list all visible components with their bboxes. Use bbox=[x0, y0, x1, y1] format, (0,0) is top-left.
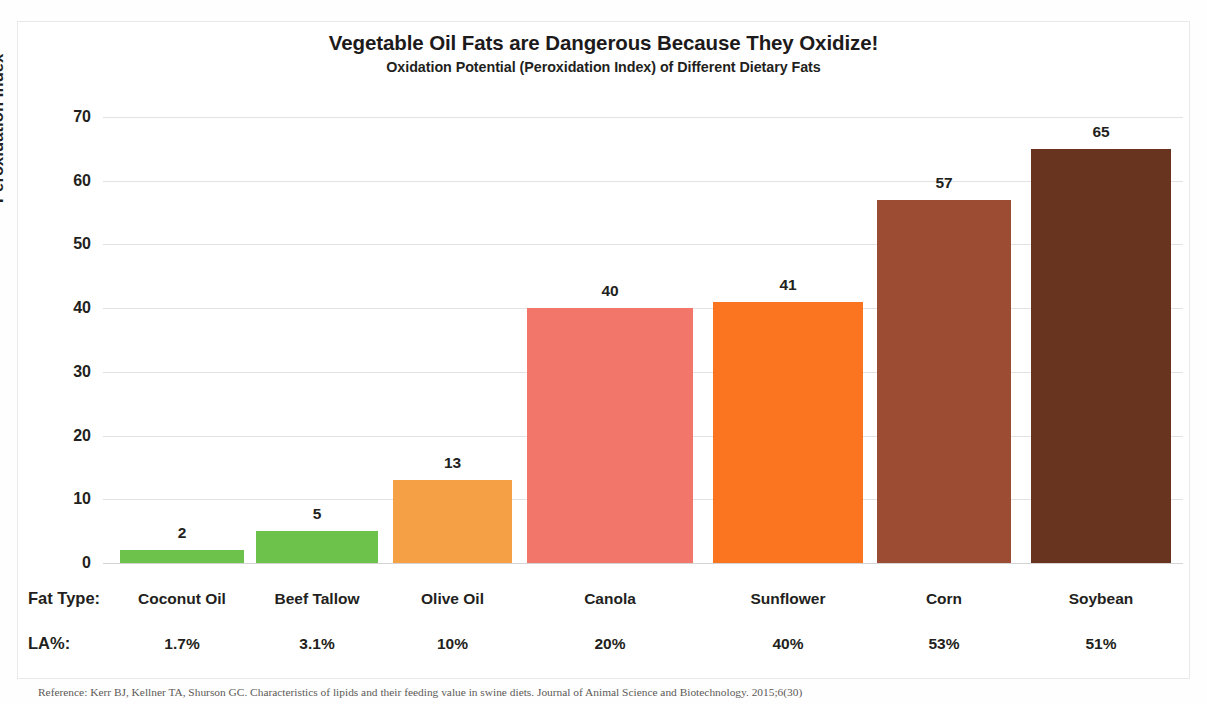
y-axis-tick-20: 20 bbox=[45, 427, 91, 445]
fat-type-cell: Soybean bbox=[1031, 590, 1171, 608]
fat-type-cell: Corn bbox=[877, 590, 1011, 608]
y-axis-title: Peroxidation Index bbox=[0, 54, 7, 203]
la-percent-cell: 51% bbox=[1031, 635, 1171, 653]
gridline-60 bbox=[103, 181, 1183, 182]
fat-type-cell: Canola bbox=[527, 590, 693, 608]
bar-value-label: 13 bbox=[444, 454, 461, 472]
la-percent-row-label: LA%: bbox=[28, 634, 70, 653]
bar-value-label: 65 bbox=[1092, 123, 1109, 141]
y-axis-tick-0: 0 bbox=[45, 554, 91, 572]
fat-type-cell: Sunflower bbox=[713, 590, 863, 608]
bar-value-label: 57 bbox=[935, 174, 952, 192]
y-axis-tick-40: 40 bbox=[45, 299, 91, 317]
bar-soybean: 65 bbox=[1031, 149, 1171, 563]
plot-area: 251340415765 bbox=[103, 117, 1183, 563]
y-axis-tick-30: 30 bbox=[45, 363, 91, 381]
la-percent-cell: 53% bbox=[877, 635, 1011, 653]
gridline-50 bbox=[103, 244, 1183, 245]
bar-olive-oil: 13 bbox=[393, 480, 512, 563]
la-percent-cell: 40% bbox=[713, 635, 863, 653]
y-axis-tick-70: 70 bbox=[45, 108, 91, 126]
la-percent-cell: 3.1% bbox=[256, 635, 378, 653]
bar-value-label: 41 bbox=[779, 276, 796, 294]
chart-subtitle: Oxidation Potential (Peroxidation Index)… bbox=[0, 57, 1207, 77]
bar-corn: 57 bbox=[877, 200, 1011, 563]
gridline-70 bbox=[103, 117, 1183, 118]
bar-value-label: 5 bbox=[313, 505, 322, 523]
y-axis-tick-50: 50 bbox=[45, 235, 91, 253]
chart-page: Vegetable Oil Fats are Dangerous Because… bbox=[0, 0, 1207, 704]
fat-type-cell: Olive Oil bbox=[393, 590, 512, 608]
fat-type-cell: Beef Tallow bbox=[256, 590, 378, 608]
fat-type-row-label: Fat Type: bbox=[28, 589, 100, 608]
y-axis-tick-60: 60 bbox=[45, 172, 91, 190]
bar-canola: 40 bbox=[527, 308, 693, 563]
reference-citation: Reference: Kerr BJ, Kellner TA, Shurson … bbox=[38, 686, 1188, 698]
la-percent-cell: 10% bbox=[393, 635, 512, 653]
bar-value-label: 2 bbox=[178, 524, 187, 542]
bar-value-label: 40 bbox=[601, 282, 618, 300]
y-axis-tick-10: 10 bbox=[45, 490, 91, 508]
title-block: Vegetable Oil Fats are Dangerous Because… bbox=[0, 30, 1207, 77]
la-percent-cell: 1.7% bbox=[120, 635, 244, 653]
page-title: Vegetable Oil Fats are Dangerous Because… bbox=[0, 30, 1207, 56]
gridline-0 bbox=[103, 563, 1183, 564]
fat-type-cell: Coconut Oil bbox=[120, 590, 244, 608]
bar-beef-tallow: 5 bbox=[256, 531, 378, 563]
bar-coconut-oil: 2 bbox=[120, 550, 244, 563]
la-percent-cell: 20% bbox=[527, 635, 693, 653]
bar-sunflower: 41 bbox=[713, 302, 863, 563]
